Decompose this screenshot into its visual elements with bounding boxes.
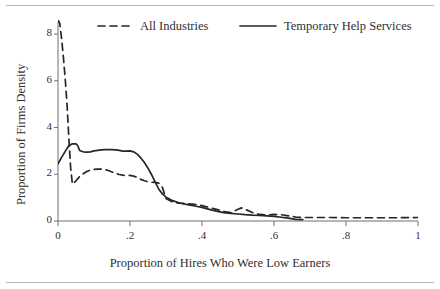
y-tick-label: 8 bbox=[38, 26, 52, 38]
series-line-all-industries bbox=[58, 20, 418, 218]
x-axis-title: Proportion of Hires Who Were Low Earners bbox=[0, 256, 440, 271]
x-tick-label: 0 bbox=[48, 229, 68, 241]
x-tick-label: .8 bbox=[336, 229, 356, 241]
legend-label-temporary-help-services: Temporary Help Services bbox=[284, 19, 412, 34]
x-tick-label: .6 bbox=[264, 229, 284, 241]
legend-label-all-industries: All Industries bbox=[140, 19, 208, 34]
y-tick-label: 0 bbox=[38, 213, 52, 225]
y-axis-tick-marks bbox=[54, 34, 58, 221]
y-tick-label: 6 bbox=[38, 73, 52, 85]
y-axis-title: Proportion of Firms Density bbox=[14, 64, 29, 205]
chart-plot-area bbox=[0, 0, 440, 289]
y-tick-label: 2 bbox=[38, 166, 52, 178]
x-tick-label: .2 bbox=[120, 229, 140, 241]
x-tick-label: .4 bbox=[192, 229, 212, 241]
figure-container: All Industries Temporary Help Services P… bbox=[0, 0, 440, 289]
x-axis-tick-marks bbox=[58, 221, 418, 226]
y-tick-label: 4 bbox=[38, 120, 52, 132]
x-tick-label: 1 bbox=[408, 229, 428, 241]
series-line-temporary-help-services bbox=[58, 144, 303, 220]
